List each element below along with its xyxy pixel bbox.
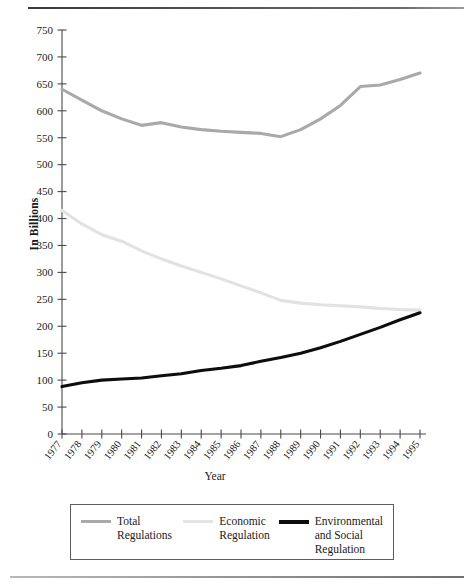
x-tick-label: 1994 [380, 438, 402, 462]
legend-swatch-environmental-and-social-regulation [279, 520, 309, 524]
x-tick-label: 1991 [320, 438, 342, 461]
series-line-economic-regulation [62, 210, 420, 310]
chart-plot-area: 0501001502002503003504004505005506006507… [0, 18, 440, 488]
x-tick-label: 1992 [340, 438, 362, 461]
y-tick-label: 200 [37, 320, 54, 332]
chart-page: In Billions 0501001502002503003504004505… [0, 0, 464, 587]
x-tick-label: 1979 [82, 438, 104, 461]
y-tick-label: 700 [37, 51, 54, 63]
y-tick-label: 50 [42, 401, 54, 413]
x-tick-label: 1980 [102, 438, 124, 461]
x-tick-label: 1989 [281, 438, 303, 461]
y-tick-label: 550 [37, 132, 54, 144]
x-tick-label: 1990 [301, 438, 323, 461]
legend-swatch-economic-regulation [183, 520, 213, 523]
x-tick-label: 1995 [400, 438, 422, 461]
x-axis-title: Year [0, 470, 430, 482]
y-tick-label: 500 [37, 158, 54, 170]
legend-label-total-regulations: TotalRegulations [117, 514, 172, 542]
x-tick-label: 1987 [241, 438, 263, 461]
y-tick-label: 600 [37, 105, 54, 117]
y-tick-label: 750 [37, 24, 54, 36]
y-tick-label: 300 [37, 266, 54, 278]
y-tick-label: 100 [37, 374, 54, 386]
legend-label-environmental-and-social-regulation: Environmentaland SocialRegulation [315, 514, 383, 556]
y-tick-label: 650 [37, 78, 54, 90]
x-tick-label: 1981 [122, 438, 144, 461]
x-tick-label: 1986 [221, 438, 243, 461]
x-tick-label: 1977 [42, 438, 64, 461]
y-tick-label: 350 [37, 239, 54, 251]
x-axis-group: 1977197819791980198119821983198419851986… [42, 430, 426, 462]
x-tick-label: 1993 [360, 438, 382, 461]
x-tick-label: 1984 [181, 438, 203, 462]
chart-legend: TotalRegulations EconomicRegulation Envi… [70, 504, 394, 560]
y-tick-label: 150 [37, 347, 54, 359]
legend-item-economic-regulation[interactable]: EconomicRegulation [183, 514, 278, 542]
y-tick-label: 250 [37, 293, 54, 305]
x-tick-label: 1978 [62, 438, 84, 461]
y-tick-label: 450 [37, 185, 54, 197]
x-tick-label: 1985 [201, 438, 223, 461]
series-line-environmental-and-social-regulation [62, 313, 420, 387]
series-line-total-regulations [62, 73, 420, 137]
x-tick-label: 1988 [261, 438, 283, 461]
y-tick-label: 0 [48, 428, 54, 440]
y-tick-label: 400 [37, 212, 54, 224]
legend-swatch-total-regulations [81, 520, 111, 523]
legend-item-total-regulations[interactable]: TotalRegulations [81, 514, 183, 542]
y-axis-group: 0501001502002503003504004505005506006507… [37, 24, 67, 440]
line-chart: In Billions 0501001502002503003504004505… [0, 18, 464, 488]
bottom-divider-rule [10, 576, 464, 578]
x-tick-label: 1982 [141, 438, 163, 461]
legend-item-environmental-and-social-regulation[interactable]: Environmentaland SocialRegulation [279, 514, 383, 556]
x-tick-label: 1983 [161, 438, 183, 461]
series-group [62, 73, 420, 387]
top-divider-rule [28, 7, 464, 9]
legend-label-economic-regulation: EconomicRegulation [219, 514, 269, 542]
